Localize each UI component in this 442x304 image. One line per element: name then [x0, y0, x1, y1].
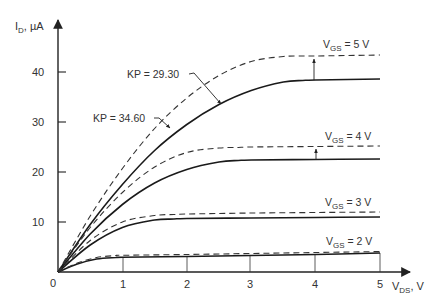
- y-tick-20: 20: [32, 166, 44, 178]
- y-ticks: 10 20 30 40: [32, 66, 66, 228]
- y-tick-40: 40: [32, 66, 44, 78]
- vgs-4-label: VGS = 4 V: [325, 130, 371, 145]
- x-tick-4: 4: [312, 278, 318, 290]
- x-tick-2: 2: [184, 278, 190, 290]
- x-tick-1: 1: [120, 278, 126, 290]
- x-axis-label: VDS, V: [392, 280, 425, 295]
- kp-29-30-label: KP = 29.30: [127, 68, 179, 80]
- origin-label: 0: [50, 277, 56, 289]
- x-tick-5: 5: [377, 278, 383, 290]
- y-tick-30: 30: [32, 116, 44, 128]
- vgs-5-label: VGS = 5 V: [323, 38, 369, 53]
- id-vds-chart: ID, µA VDS, V 0 10 20 30 40 1 2 3 4 5 KP…: [0, 0, 442, 304]
- vgs-3-label: VGS = 3 V: [325, 196, 371, 211]
- y-axis-label: ID, µA: [15, 20, 44, 35]
- curve-vgs4-solid: [58, 159, 380, 272]
- y-tick-10: 10: [32, 216, 44, 228]
- vgs-2-label: VGS = 2 V: [326, 235, 372, 250]
- kp-34-60-label: KP = 34.60: [93, 112, 145, 124]
- x-tick-3: 3: [247, 278, 253, 290]
